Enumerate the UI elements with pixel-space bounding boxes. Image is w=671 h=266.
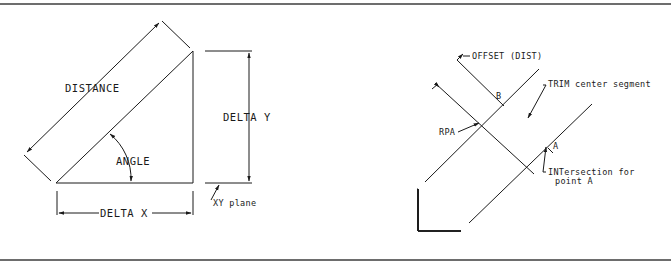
delta-x-label: DELTA X	[100, 207, 148, 219]
offset-dim-tick-1	[457, 54, 463, 60]
point-b-top-label: B	[496, 91, 501, 101]
angle-label: ANGLE	[116, 155, 150, 167]
cad-diagram: DISTANCE ANGLE DELTA Y DELTA X XY plane	[0, 0, 671, 266]
trim-label: TRIM center segment	[548, 79, 651, 89]
intersection-label-2: point A	[555, 176, 593, 186]
left-panel: DISTANCE ANGLE DELTA Y DELTA X XY plane	[24, 21, 271, 219]
xy-plane-label: XY plane	[213, 198, 256, 208]
chamfered-shape	[417, 189, 461, 231]
right-panel: OFFSET (DIST) B TRIM center segment RPA …	[417, 51, 651, 231]
distance-label: DISTANCE	[65, 82, 120, 94]
offset-line-lower	[469, 104, 592, 223]
offset-dim-tick-3	[432, 84, 438, 89]
rpa-leader	[458, 123, 479, 132]
offset-line-upper	[425, 69, 539, 182]
point-a-right-label: A	[553, 141, 558, 151]
offset-label: OFFSET (DIST)	[472, 51, 542, 61]
rpa-label: RPA	[439, 127, 455, 137]
trim-arrow	[528, 85, 546, 118]
delta-y-label: DELTA Y	[223, 111, 271, 123]
distance-dimension	[24, 21, 190, 181]
